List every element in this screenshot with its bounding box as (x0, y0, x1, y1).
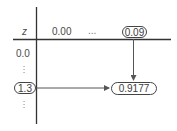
row-label-1-3-highlighted: 1.3 (14, 82, 36, 94)
column-header-0-00: 0.00 (52, 26, 71, 38)
row-label-0-0: 0.0 (16, 48, 30, 60)
column-header-0-09-highlighted: 0.09 (122, 26, 147, 38)
z-header-label: z (22, 26, 27, 38)
row-ellipsis-lower: ··· (22, 100, 26, 109)
z-table-diagram: z 0.00 ... 0.09 0.0 ··· 1.3 ··· 0.9177 (0, 0, 177, 131)
column-header-ellipsis: ... (88, 25, 96, 37)
row-ellipsis-upper: ··· (22, 65, 26, 74)
table-lines (0, 0, 177, 131)
result-value-oval: 0.9177 (111, 82, 157, 95)
